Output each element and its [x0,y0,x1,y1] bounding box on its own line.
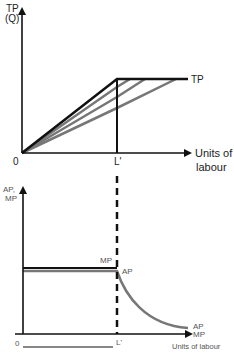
production-charts: TP (Q) 0 L' TP Units of labour AP, MP 0 … [0,0,234,354]
tp-x-label-1: Units of [195,147,233,159]
tp-chart: TP (Q) 0 L' TP Units of labour [5,3,233,173]
tp-origin-label: 0 [13,156,19,167]
ap-y-label-1: AP, [3,185,15,194]
ap-lprime-label: L' [116,338,122,347]
ap-x-label: Units of labour [172,342,221,351]
tp-line-gray-3 [22,79,176,153]
tp-line-gray-2 [22,79,145,153]
ap-label: AP [122,267,133,276]
tp-lprime-label: L' [114,156,122,167]
ap-y-label-2: MP [5,194,17,203]
ap-mp-chart: AP, MP 0 L' MP AP AP MP Units of labour [3,176,221,351]
ap-origin-label: 0 [15,339,20,348]
ap-curve [23,271,188,328]
mp-end-label: MP [193,330,205,339]
tp-x-label-2: labour [196,161,227,173]
mp-label: MP [100,256,112,265]
tp-curve-label: TP [191,74,204,85]
tp-y-label-2: (Q) [5,13,19,24]
